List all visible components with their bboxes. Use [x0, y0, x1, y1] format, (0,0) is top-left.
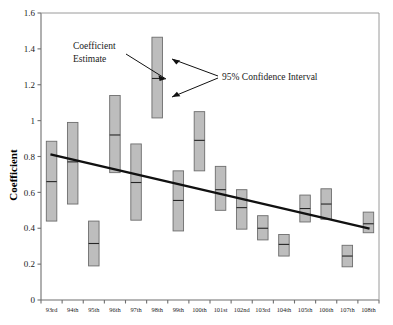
x-tick-label: 107th: [340, 306, 355, 313]
confidence-interval-box: [67, 122, 78, 204]
x-tick-label: 100th: [192, 306, 207, 313]
x-tick-label: 103rd: [255, 306, 271, 313]
y-tick-label: 0.2: [24, 259, 35, 269]
y-axis-tick-labels: 00.20.40.60.811.21.41.6: [24, 8, 36, 305]
x-tick-label: 98th: [152, 306, 164, 313]
estimate-marker: [173, 171, 184, 231]
x-tick-label: 105th: [298, 306, 313, 313]
estimate-marker: [342, 245, 353, 267]
estimate-marker: [363, 212, 374, 233]
estimate-marker: [236, 190, 247, 229]
x-tick-label: 108th: [361, 306, 376, 313]
confidence-interval-box: [236, 190, 247, 229]
estimate-marker: [110, 96, 121, 173]
annotation-coefficient-estimate-line1: Coefficient: [73, 41, 116, 51]
estimate-marker: [67, 122, 78, 204]
estimate-marker: [194, 112, 205, 171]
estimate-marker: [131, 144, 142, 220]
y-tick-label: 0.6: [24, 188, 36, 198]
confidence-interval-box: [279, 235, 290, 257]
annotation-coefficient-estimate-line2: Estimate: [73, 54, 106, 64]
chart-canvas: 00.20.40.60.811.21.41.6 93rd94th95th96th…: [0, 0, 393, 325]
confidence-interval-box: [110, 96, 121, 173]
y-tick-label: 0: [31, 295, 36, 305]
estimate-marker: [300, 195, 311, 222]
estimate-marker: [89, 221, 100, 266]
estimate-marker: [215, 166, 226, 210]
y-axis-title: Coefficient: [7, 149, 19, 201]
x-tick-label: 99th: [173, 306, 185, 313]
x-tick-label: 102nd: [234, 306, 251, 313]
coefficient-plot: 00.20.40.60.811.21.41.6 93rd94th95th96th…: [0, 0, 393, 325]
y-tick-label: 0.8: [24, 152, 36, 162]
confidence-interval-box: [215, 166, 226, 210]
confidence-interval-box: [194, 112, 205, 171]
x-tick-label: 95th: [88, 306, 100, 313]
estimate-marker: [321, 189, 332, 219]
x-tick-label: 106th: [319, 306, 334, 313]
estimate-marker: [258, 216, 269, 240]
y-tick-label: 1.2: [24, 80, 35, 90]
x-tick-label: 94th: [67, 306, 79, 313]
y-tick-label: 0.4: [24, 223, 36, 233]
estimate-marker: [279, 235, 290, 257]
y-tick-label: 1.4: [24, 44, 36, 54]
y-tick-label: 1: [31, 116, 36, 126]
estimate-marker: [46, 141, 57, 221]
x-tick-label: 93rd: [46, 306, 59, 313]
x-tick-label: 101st: [214, 306, 228, 313]
x-tick-label: 96th: [109, 306, 121, 313]
annotation-confidence-interval-label: 95% Confidence Interval: [222, 72, 318, 82]
x-tick-label: 104th: [277, 306, 292, 313]
confidence-interval-box: [363, 212, 374, 233]
y-tick-label: 1.6: [24, 8, 36, 18]
x-tick-label: 97th: [130, 306, 142, 313]
